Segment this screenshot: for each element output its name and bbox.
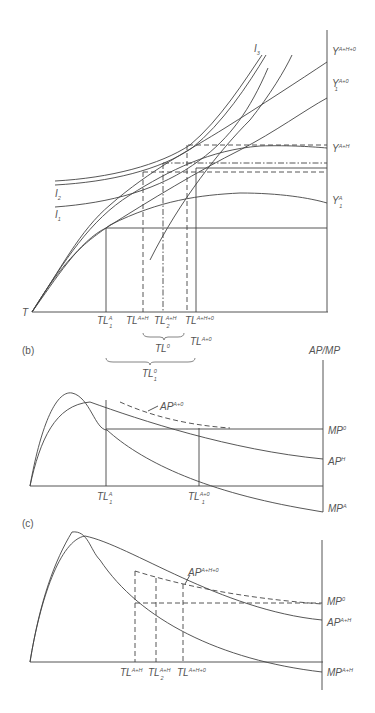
isoquant-I2 — [55, 55, 262, 181]
isoquant-label-I1: I1 — [55, 209, 61, 222]
isoquant-label-I2: I2 — [55, 188, 61, 201]
label-TL0-1: TL01 — [142, 368, 158, 382]
curve-Y-A-H — [32, 146, 327, 312]
panel-b-label: (b) — [22, 345, 34, 356]
x-label-TL2-A-H: TLA+H2 — [154, 315, 177, 329]
panel-b: (b) AP/MP APA+0 MP0 APH MPA TLA1 TLA+01 — [22, 345, 347, 514]
x-label-b-TL1-A: TLA1 — [97, 491, 113, 505]
curve-MP-A-H — [30, 532, 322, 672]
label-Y1-A-0: YA+01 — [332, 78, 350, 92]
panel-b-y-axis-label: AP/MP — [308, 345, 340, 356]
isoquant-label-I3: I3 — [254, 43, 261, 56]
label-AP-A-0: APA+0 — [159, 401, 184, 412]
curve-Y-A-H-0 — [32, 62, 327, 312]
curve-AP-A-H-0 — [135, 571, 322, 604]
label-TL0: TL0 — [155, 343, 171, 354]
leader-AP-A-0 — [148, 406, 158, 411]
isoquant-I1 — [55, 68, 268, 207]
label-AP-H: APH — [327, 456, 345, 467]
curve-AP-A-H — [30, 536, 322, 662]
label-AP-A-H-0: APA+H+0 — [187, 567, 219, 578]
label-Y1-A: YA1 — [332, 195, 343, 209]
isoquant-I3a — [55, 55, 266, 185]
x-label-TL-A-H-0: TLA+H+0 — [185, 315, 215, 326]
label-MP0-b: MP0 — [328, 425, 347, 436]
x-label-TL-A-H: TLA+H — [126, 315, 149, 326]
x-label-c-TL2-A-H: TLA+H2 — [148, 667, 171, 681]
brace-TL0 — [143, 333, 184, 340]
x-label-c-TL-A-H-0: TLA+H+0 — [177, 667, 207, 678]
label-AP-A-H: APA+H — [326, 617, 351, 628]
origin-label: T — [22, 307, 29, 318]
isoquant-I3b — [150, 55, 292, 260]
panel-c-label: (c) — [22, 518, 34, 529]
brace-TL01 — [106, 358, 195, 365]
label-Y-A-H-0: YA+H+0 — [332, 46, 357, 57]
panel-a: T I1 I2 I3 YA+H+0 YA+01 YA+H YA1 TLA1 TL… — [22, 30, 357, 382]
label-MP-A: MPA — [328, 503, 347, 514]
x-label-b-TL1-A-0: TLA+01 — [188, 491, 211, 505]
label-Y-A-H: YA+H — [332, 143, 350, 154]
label-MP0-c: MP0 — [327, 596, 346, 607]
x-label-TL1-A: TLA1 — [97, 315, 113, 329]
panel-c: (c) APA+H+0 MP0 APA+H MPA+H TLA+H TLA+H2… — [22, 518, 353, 690]
x-label-c-TL-A-H: TLA+H — [120, 667, 143, 678]
curve-AP-H — [30, 402, 323, 486]
production-diagram: T I1 I2 I3 YA+H+0 YA+01 YA+H YA1 TLA1 TL… — [0, 0, 375, 713]
curve-MP-A — [30, 393, 323, 512]
label-TL-A-0: TLA+0 — [190, 336, 213, 347]
label-MP-A-H: MPA+H — [327, 667, 353, 678]
curve-Y1-A — [32, 193, 327, 312]
